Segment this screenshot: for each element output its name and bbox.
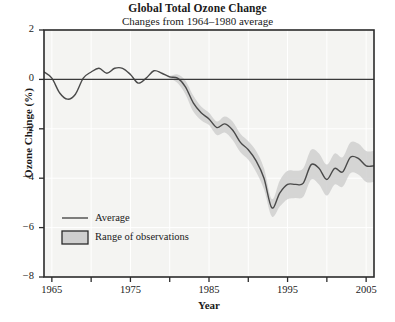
chart-subtitle: Changes from 1964–1980 average [0,15,395,27]
y-tick-label: 2 [6,23,34,34]
y-tick-label: −2 [6,122,34,133]
x-tick-label: 1965 [29,284,75,295]
x-tick-label: 1995 [265,284,311,295]
plot-area [0,0,395,322]
legend-label-average: Average [95,212,130,223]
ozone-change-chart-figure: Global Total Ozone Change Changes from 1… [0,0,395,322]
y-tick-label: −4 [6,171,34,182]
x-axis-label: Year [44,299,374,311]
y-tick-label: −6 [6,221,34,232]
y-tick-label: 0 [6,72,34,83]
chart-title: Global Total Ozone Change [0,2,395,14]
legend-label-range-of-observations: Range of observations [95,231,189,242]
x-tick-label: 1975 [107,284,153,295]
x-tick-label: 1985 [186,284,232,295]
y-tick-label: −8 [6,270,34,281]
legend-range-swatch [62,231,88,244]
x-tick-label: 2005 [343,284,389,295]
